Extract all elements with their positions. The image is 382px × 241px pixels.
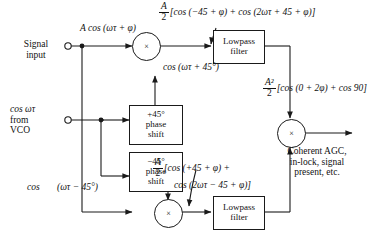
top-lo-expression: cos (ωτ + 45°) — [163, 62, 219, 73]
top-equation-fraction: A 2 — [159, 2, 169, 23]
output-line2: in-lock, signal — [290, 157, 344, 167]
phase-shift-plus45-block: +45° phase shift — [129, 105, 183, 145]
lowpass-top-line1: Lowpass — [223, 36, 255, 46]
top-eq-body: [cos (−45 + φ) + cos (2ωτ + 45 + φ)] — [170, 7, 316, 17]
lowpass-filter-bottom-block: Lowpass filter — [213, 196, 265, 230]
lowpass-filter-top-block: Lowpass filter — [213, 30, 265, 64]
top-output-equation: A 2 [cos (−45 + φ) + cos (2ωτ + 45 + φ)] — [158, 2, 315, 23]
bottom-lo-arg-label: (ωτ − 45°) — [57, 182, 98, 193]
signal-input-label: Signal input — [8, 39, 64, 60]
bottom-equation-fraction: A 2 — [153, 158, 163, 179]
signal-input-line2: input — [26, 50, 46, 60]
multiplier-bottom: × — [154, 199, 183, 228]
top-eq-denominator: 2 — [159, 13, 169, 23]
vco-line1: cos ωτ — [10, 104, 35, 114]
output-line1: Coherent AGC, — [287, 146, 346, 156]
output-description-label: Coherent AGC, in-lock, signal present, e… — [258, 146, 376, 178]
phase-plus-line3: shift — [148, 129, 164, 139]
vco-input-label: cos ωτ from VCO — [10, 104, 35, 136]
bottom-lo-cos-label: cos — [27, 182, 40, 193]
bottom-eq-body-line2: cos (2ωτ − 45 + φ)] — [174, 180, 251, 190]
vco-line3: VCO — [10, 125, 30, 135]
output-line3: present, etc. — [294, 167, 340, 177]
multiplier-symbol: × — [166, 209, 171, 218]
phase-plus-line2: phase — [146, 119, 167, 129]
phase-plus-line1: +45° — [147, 109, 165, 119]
vco-terminal — [65, 117, 71, 123]
bottom-eq-body-line1: [cos (+45 + φ) + — [164, 163, 230, 173]
wiring-layer — [0, 0, 382, 241]
bottom-output-equation: A 2 [cos (+45 + φ) + cos (2ωτ − 45 + φ)] — [152, 158, 251, 191]
right-eq-denominator: 2 — [263, 89, 276, 99]
multiplier-top: × — [132, 32, 161, 61]
lowpass-bottom-line1: Lowpass — [223, 202, 255, 212]
multiplier-symbol: × — [144, 42, 149, 51]
lowpass-top-line2: filter — [230, 46, 248, 56]
bottom-eq-denominator: 2 — [153, 169, 163, 179]
right-output-equation: A² 2 [cos (0 + 2φ) + cos 90] — [262, 78, 367, 99]
diagram-canvas: × × × +45° phase shift −45° phase shift … — [0, 0, 382, 241]
multiplier-output: × — [277, 119, 306, 148]
right-equation-fraction: A² 2 — [263, 78, 276, 99]
signal-input-line1: Signal — [24, 39, 48, 49]
right-eq-body: [cos (0 + 2φ) + cos 90] — [277, 83, 367, 93]
signal-input-terminal — [65, 43, 71, 49]
lowpass-bottom-line2: filter — [230, 212, 248, 222]
multiplier-symbol: × — [289, 129, 294, 138]
input-signal-expression: A cos (ωτ + φ) — [80, 23, 136, 34]
vco-line2: from — [10, 115, 28, 125]
